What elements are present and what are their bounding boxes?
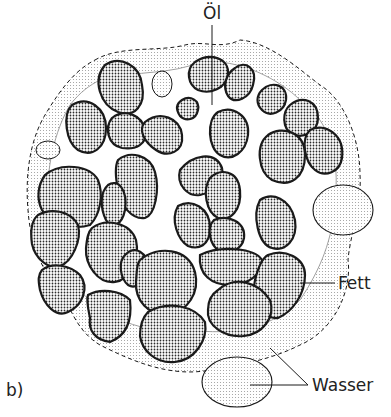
water-droplet-small <box>152 71 172 97</box>
microstructure-diagram <box>0 0 391 417</box>
water-droplet-right <box>313 185 373 235</box>
water-leader-line-top <box>270 348 308 385</box>
water-droplet-bottom <box>202 357 272 407</box>
fat-label: Fett <box>338 275 371 292</box>
oil-label: Öl <box>203 5 221 22</box>
water-label: Wasser <box>312 377 373 394</box>
water-droplet-small <box>36 141 60 159</box>
panel-label: b) <box>6 382 23 399</box>
